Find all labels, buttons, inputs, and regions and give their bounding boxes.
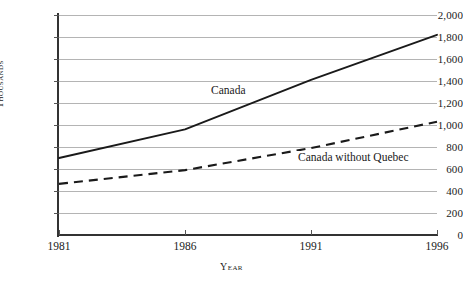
plot-area bbox=[59, 15, 437, 235]
x-axis-line bbox=[58, 234, 438, 236]
x-tick-mark bbox=[185, 230, 186, 235]
x-tick-label: 1996 bbox=[415, 240, 459, 252]
series-label-canada-without-quebec: Canada without Quebec bbox=[296, 151, 411, 163]
y-tick-mark bbox=[54, 59, 59, 60]
y-tick-mark bbox=[54, 103, 59, 104]
gridline bbox=[59, 125, 437, 126]
x-tick-label: 1986 bbox=[163, 240, 207, 252]
y-tick-label: 1,400 bbox=[411, 76, 463, 87]
y-tick-label: 200 bbox=[411, 208, 463, 219]
y-tick-label: 800 bbox=[411, 142, 463, 153]
y-tick-mark bbox=[54, 125, 59, 126]
x-tick-label: 1981 bbox=[37, 240, 81, 252]
x-tick-mark bbox=[59, 230, 60, 235]
gridline bbox=[59, 37, 437, 38]
gridline bbox=[59, 147, 437, 148]
y-tick-mark bbox=[54, 191, 59, 192]
y-tick-mark bbox=[54, 81, 59, 82]
y-tick-label: 1,800 bbox=[411, 32, 463, 43]
y-tick-label: 1,600 bbox=[411, 54, 463, 65]
y-tick-label: 400 bbox=[411, 186, 463, 197]
y-tick-mark bbox=[54, 147, 59, 148]
gridline bbox=[59, 15, 437, 16]
y-tick-mark bbox=[54, 213, 59, 214]
y-tick-label: 1,000 bbox=[411, 120, 463, 131]
x-tick-label: 1991 bbox=[289, 240, 333, 252]
gridline bbox=[59, 59, 437, 60]
y-tick-mark bbox=[54, 15, 59, 16]
y-axis-title: Thousands bbox=[0, 60, 5, 108]
gridline bbox=[59, 169, 437, 170]
y-tick-label: 600 bbox=[411, 164, 463, 175]
y-tick-mark bbox=[54, 37, 59, 38]
series-label-canada: Canada bbox=[209, 84, 247, 96]
line-chart: 2,000 1,800 1,600 1,400 1,200 1,000 800 … bbox=[0, 0, 463, 282]
gridline bbox=[59, 191, 437, 192]
x-axis-title: Year bbox=[0, 261, 463, 272]
gridline bbox=[59, 81, 437, 82]
x-tick-mark bbox=[311, 230, 312, 235]
y-tick-label: 2,000 bbox=[411, 10, 463, 21]
y-tick-mark bbox=[54, 169, 59, 170]
y-tick-label: 1,200 bbox=[411, 98, 463, 109]
gridline bbox=[59, 103, 437, 104]
x-tick-mark bbox=[437, 230, 438, 235]
gridline bbox=[59, 213, 437, 214]
